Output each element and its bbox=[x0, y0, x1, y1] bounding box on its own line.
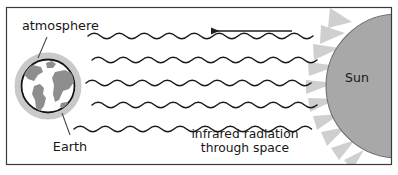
atmosphere-label: atmosphere bbox=[22, 18, 99, 33]
diagram-root: Sun bbox=[0, 0, 398, 175]
infrared-radiation-label-line1: infrared radiation bbox=[191, 127, 298, 141]
earth-group bbox=[18, 56, 79, 117]
sun-label: Sun bbox=[345, 70, 369, 85]
earth-label: Earth bbox=[53, 139, 87, 154]
infrared-radiation-label-line2: through space bbox=[201, 141, 289, 155]
diagram-canvas: Sun bbox=[0, 0, 398, 175]
